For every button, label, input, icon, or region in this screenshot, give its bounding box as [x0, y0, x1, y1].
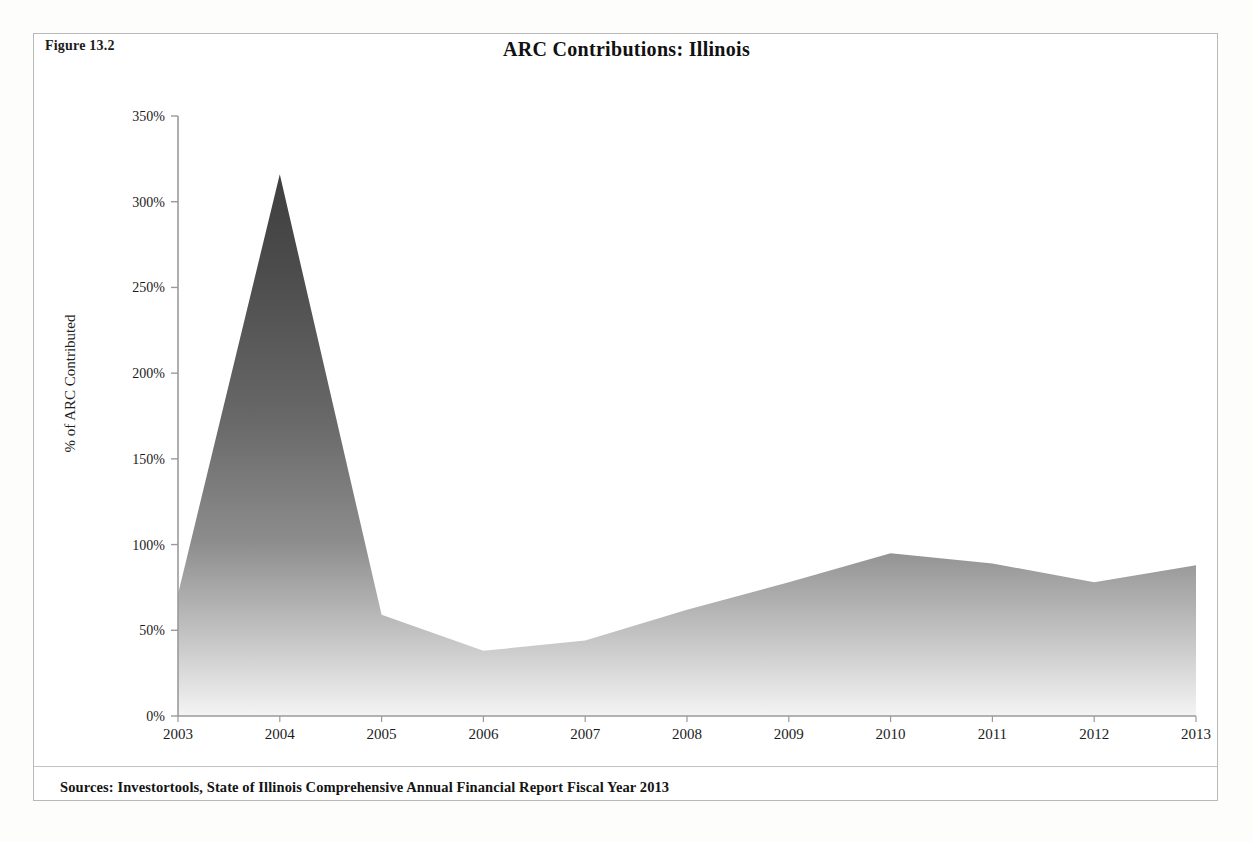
- page-background: Figure 13.2 ARC Contributions: Illinois …: [0, 0, 1253, 842]
- source-note: Sources: Investortools, State of Illinoi…: [60, 779, 669, 796]
- chart-title: ARC Contributions: Illinois: [0, 38, 1253, 61]
- figure-frame: [33, 33, 1218, 801]
- y-axis-title: % of ARC Contributed: [62, 274, 79, 494]
- source-divider: [34, 766, 1217, 767]
